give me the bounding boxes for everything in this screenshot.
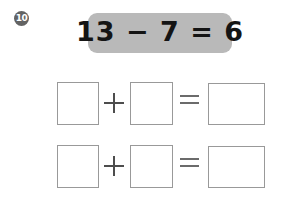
answer-box-row2-sum[interactable]: [208, 146, 265, 188]
equation-banner: 13 − 7 = 6: [88, 13, 232, 53]
worksheet-canvas: 10 13 − 7 = 6: [0, 0, 283, 202]
banner-equation-text: 13 − 7 = 6: [76, 18, 244, 48]
equation-row-1: [0, 80, 283, 128]
equals-icon-row2: [180, 158, 199, 170]
answer-box-row2-addend1[interactable]: [57, 145, 99, 188]
answer-box-row1-addend1[interactable]: [57, 82, 99, 125]
plus-icon-row2: [104, 156, 124, 176]
answer-box-row1-addend2[interactable]: [130, 82, 173, 125]
problem-number-marker: 10: [14, 11, 29, 26]
equals-icon-row1: [180, 95, 199, 107]
answer-box-row2-addend2[interactable]: [130, 145, 173, 188]
plus-icon-row1: [104, 93, 124, 113]
equation-row-2: [0, 143, 283, 191]
answer-box-row1-sum[interactable]: [208, 83, 265, 125]
